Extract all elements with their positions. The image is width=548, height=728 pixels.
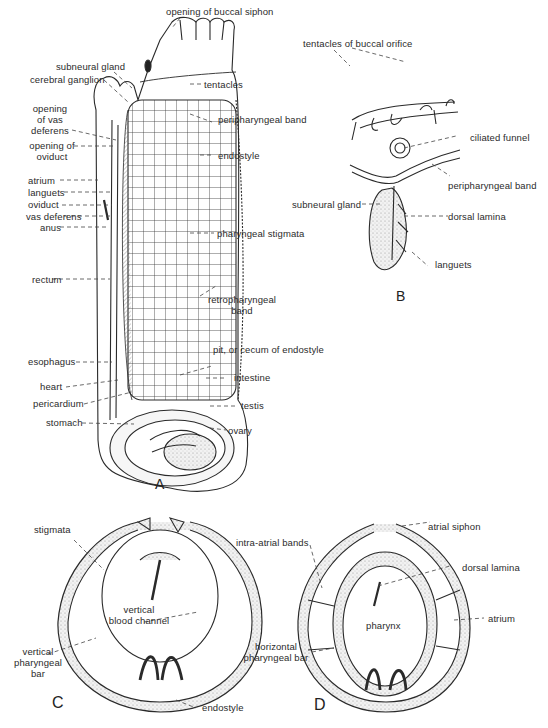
label-opening-of-oviduct: opening of oviduct [28,140,76,162]
label-line: pharyngeal [14,657,62,668]
label-vertical-blood-channel: vertical blood channel [104,604,174,626]
label-cerebral-ganglion: cerebral ganglion [30,74,105,85]
label-line: of vas [30,114,70,125]
label-testis: testis [241,400,264,411]
label-subneural-gland: subneural gland [56,61,125,72]
label-languets-b: languets [435,259,472,270]
label-anus: anus [40,222,61,233]
label-line: bar [14,668,62,679]
label-ciliated-funnel: ciliated funnel [470,132,530,143]
label-pharyngeal-stigmata: pharyngeal stigmata [217,228,304,239]
label-oviduct: oviduct [28,199,59,210]
panel-b-drawing [350,100,460,270]
diagram-canvas [0,0,548,728]
label-endostyle-c: endostyle [202,702,244,713]
label-subneural-gland-b: subneural gland [292,199,361,210]
panel-d-drawing [298,524,470,712]
panel-letter-d: D [314,696,326,714]
label-esophagus: esophagus [28,356,75,367]
label-languets: languets [28,187,65,198]
panel-letter-a: A [155,476,164,492]
label-line: retropharyngeal [206,294,278,305]
label-line: band [206,305,278,316]
label-atrium: atrium [28,175,55,186]
label-dorsal-lamina-d: dorsal lamina [462,562,520,573]
label-line: opening of [28,140,76,151]
label-vas-deferens: vas deferens [26,211,82,222]
label-atrium-d: atrium [488,613,515,624]
label-line: deferens [30,125,70,136]
label-horizontal-pharyngeal-bar: horizontal pharyngeal bar [240,641,312,663]
label-opening-of-buccal-siphon: opening of buccal siphon [166,6,274,17]
label-stomach: stomach [46,417,83,428]
label-line: blood channel [104,615,174,626]
label-dorsal-lamina-b: dorsal lamina [448,211,506,222]
label-line: pharyngeal bar [240,652,312,663]
label-vertical-pharyngeal-bar: vertical pharyngeal bar [14,646,62,679]
panel-letter-b: B [396,288,405,304]
label-heart: heart [40,381,62,392]
label-rectum: rectum [32,274,62,285]
label-pharynx: pharynx [366,620,401,631]
panel-letter-c: C [52,694,64,712]
label-tentacles-of-buccal-orifice: tentacles of buccal orifice [303,38,412,49]
label-line: vertical [14,646,62,657]
label-pericardium: pericardium [33,398,84,409]
label-ovary: ovary [228,425,252,436]
label-line: horizontal [240,641,312,652]
label-retropharyngeal-band: retropharyngeal band [206,294,278,316]
label-opening-of-vas-deferens: opening of vas deferens [30,103,70,136]
label-peripharyngeal-band: peripharyngeal band [218,114,307,125]
label-endostyle: endostyle [218,150,260,161]
label-line: oviduct [28,151,76,162]
label-peripharyngeal-band-b: peripharyngeal band [448,180,537,191]
label-pit-or-cecum-of-endostyle: pit, or cecum of endostyle [213,344,324,355]
label-line: opening [30,103,70,114]
label-atrial-siphon: atrial siphon [428,521,481,532]
label-line: vertical [104,604,174,615]
label-intra-atrial-bands: intra-atrial bands [236,537,309,548]
label-stigmata: stigmata [34,524,71,535]
label-intestine: intestine [234,372,270,383]
label-tentacles: tentacles [204,79,243,90]
